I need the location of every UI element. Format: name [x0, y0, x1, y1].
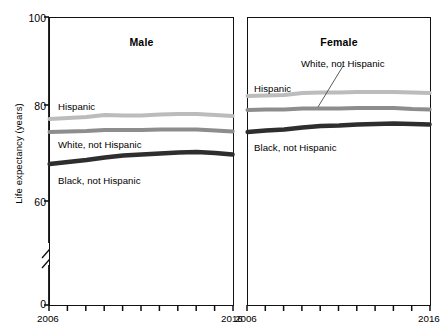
series-line-white-female — [248, 108, 430, 110]
x-tick-label-female-end: 2016 — [418, 313, 440, 324]
panel-female: Female White, not Hispanic Hispanic Blac… — [247, 17, 431, 306]
series-line-hispanic-male — [50, 114, 233, 119]
panel-male-series — [48, 16, 233, 305]
panel-male: Male Hispanic White, not Hispanic Black,… — [49, 17, 234, 306]
series-label-black-female: Black, not Hispanic — [254, 142, 337, 153]
series-line-black-male — [50, 152, 233, 164]
x-tick-label-male-start: 2006 — [37, 313, 59, 324]
series-line-black-female — [248, 124, 430, 133]
series-label-black-male: Black, not Hispanic — [58, 175, 141, 186]
series-line-white-male — [50, 130, 233, 133]
series-label-hispanic-male: Hispanic — [58, 101, 95, 112]
series-label-hispanic-female: Hispanic — [254, 83, 291, 94]
life-expectancy-chart: Life expectancy (years) 100 80 60 0 — [0, 0, 441, 334]
series-label-white-male: White, not Hispanic — [58, 139, 142, 150]
leader-line-white-female — [318, 66, 343, 107]
x-tick-label-female-start: 2006 — [235, 313, 257, 324]
series-label-white-female: White, not Hispanic — [301, 58, 385, 69]
